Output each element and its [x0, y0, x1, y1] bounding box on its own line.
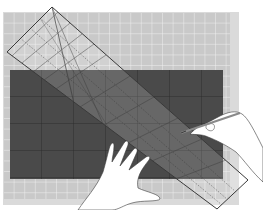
illustration-scene [0, 0, 263, 210]
cutting-illustration [0, 0, 263, 210]
